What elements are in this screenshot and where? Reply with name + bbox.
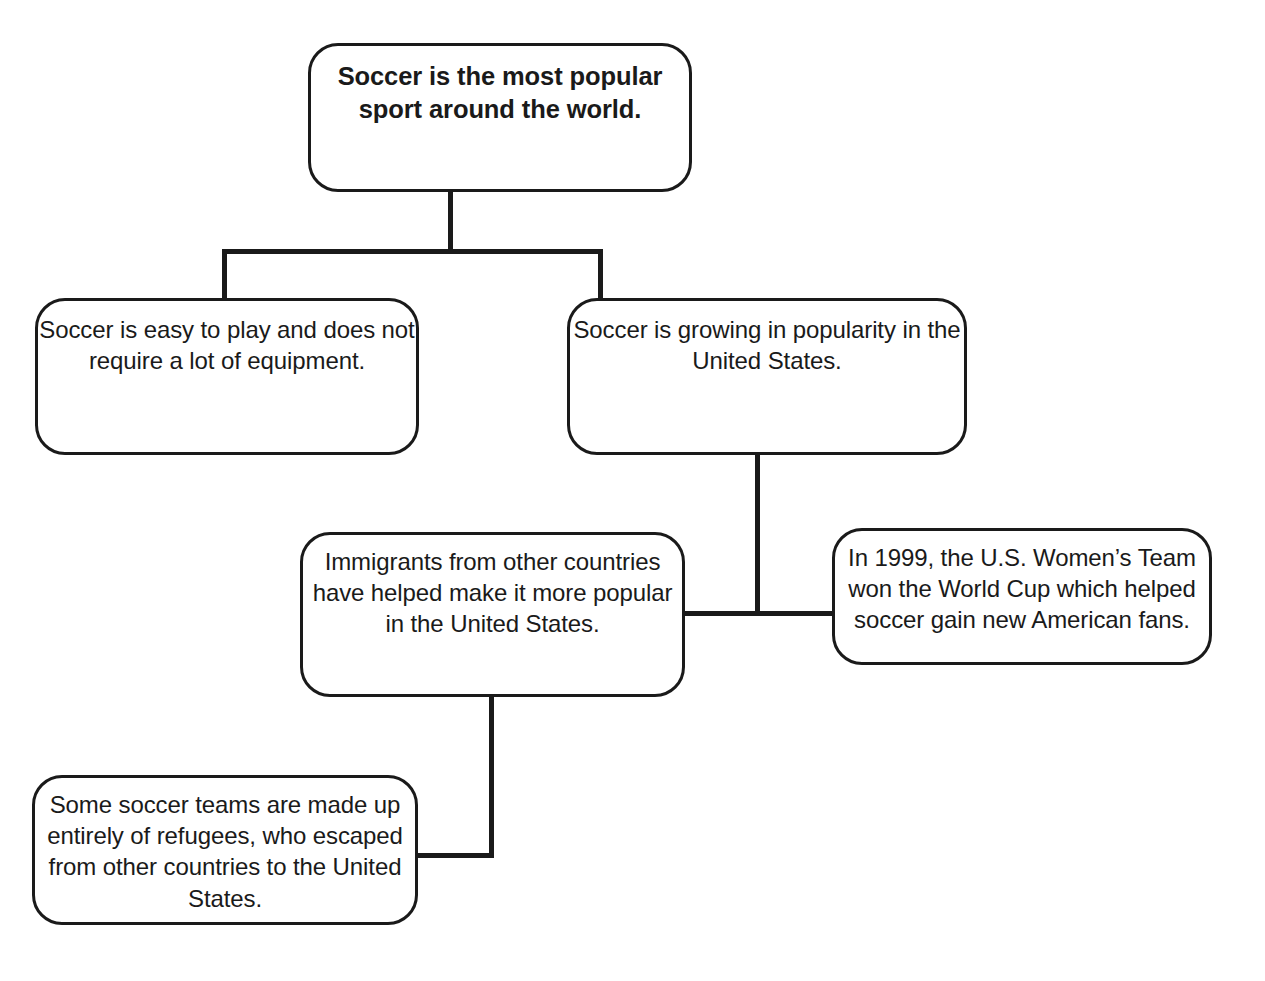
node-detail-immigrants-text: Immigrants from other countries have hel… xyxy=(303,546,682,640)
node-main-idea-text: Soccer is the most popular sport around … xyxy=(311,60,689,125)
connector-root-to-easy xyxy=(222,249,227,301)
connector-growing-branch-bar xyxy=(683,611,834,616)
diagram-canvas: Soccer is the most popular sport around … xyxy=(0,0,1265,981)
node-supporting-detail-easy-to-play: Soccer is easy to play and does not requ… xyxy=(35,298,419,455)
connector-root-to-growing xyxy=(598,249,603,301)
node-detail-refugee-teams-text: Some soccer teams are made up entirely o… xyxy=(35,789,415,914)
node-supporting-detail-growing-popularity: Soccer is growing in popularity in the U… xyxy=(567,298,967,455)
node-detail-world-cup-1999: In 1999, the U.S. Women’s Team won the W… xyxy=(832,528,1212,665)
node-supporting-detail-growing-popularity-text: Soccer is growing in popularity in the U… xyxy=(570,314,964,376)
node-detail-refugee-teams: Some soccer teams are made up entirely o… xyxy=(32,775,418,925)
node-main-idea: Soccer is the most popular sport around … xyxy=(308,43,692,192)
connector-root-branch-bar xyxy=(222,249,603,254)
connector-growing-stem xyxy=(755,453,760,616)
connector-root-stem xyxy=(448,190,453,252)
connector-immigrants-stem xyxy=(489,695,494,858)
connector-immigrants-to-refugees xyxy=(416,853,494,858)
node-detail-immigrants: Immigrants from other countries have hel… xyxy=(300,532,685,697)
node-detail-world-cup-1999-text: In 1999, the U.S. Women’s Team won the W… xyxy=(835,542,1209,636)
node-supporting-detail-easy-to-play-text: Soccer is easy to play and does not requ… xyxy=(38,314,416,376)
